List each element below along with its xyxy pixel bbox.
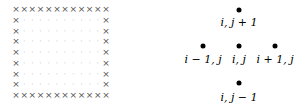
interior-node-dot: ·: [69, 69, 77, 79]
boundary-node-cross-icon: ×: [69, 4, 77, 14]
interior-node-dot: ·: [53, 47, 61, 57]
boundary-node-cross-icon: ×: [86, 4, 94, 14]
boundary-node-cross-icon: ×: [28, 90, 36, 100]
interior-node-dot: ·: [94, 26, 102, 36]
interior-node-dot: ·: [45, 69, 53, 79]
interior-node-dot: ·: [37, 58, 45, 68]
boundary-node-cross-icon: ×: [12, 47, 20, 57]
interior-node-dot: ·: [61, 36, 69, 46]
boundary-node-cross-icon: ×: [102, 36, 110, 46]
boundary-node-cross-icon: ×: [102, 90, 110, 100]
interior-node-dot: ·: [94, 15, 102, 25]
boundary-node-cross-icon: ×: [102, 58, 110, 68]
interior-node-dot: ·: [37, 69, 45, 79]
interior-node-dot: ·: [86, 58, 94, 68]
interior-node-dot: ·: [20, 58, 28, 68]
interior-node-dot: ·: [94, 69, 102, 79]
interior-node-dot: ·: [45, 58, 53, 68]
interior-node-dot: ·: [20, 26, 28, 36]
interior-node-dot: ·: [37, 47, 45, 57]
interior-node-dot: ·: [20, 36, 28, 46]
interior-node-dot: ·: [77, 79, 85, 89]
interior-node-dot: ·: [37, 26, 45, 36]
finite-difference-grid: ×××××××××××××··········××··········××···…: [0, 0, 152, 108]
boundary-node-cross-icon: ×: [28, 4, 36, 14]
boundary-node-cross-icon: ×: [12, 36, 20, 46]
boundary-node-cross-icon: ×: [77, 90, 85, 100]
interior-node-dot: ·: [28, 36, 36, 46]
boundary-node-cross-icon: ×: [12, 90, 20, 100]
interior-node-dot: ·: [77, 69, 85, 79]
stencil-label-west: i − 1, j: [184, 53, 221, 66]
interior-node-dot: ·: [53, 15, 61, 25]
interior-node-dot: ·: [69, 36, 77, 46]
stencil-label-east: i + 1, j: [256, 53, 293, 66]
stencil-label-north: i, j + 1: [220, 16, 257, 29]
interior-node-dot: ·: [61, 15, 69, 25]
boundary-node-cross-icon: ×: [45, 4, 53, 14]
interior-node-dot: ·: [20, 69, 28, 79]
interior-node-dot: ·: [61, 26, 69, 36]
interior-node-dot: ·: [69, 47, 77, 57]
interior-node-dot: ·: [61, 47, 69, 57]
interior-node-dot: ·: [37, 15, 45, 25]
interior-node-dot: ·: [28, 58, 36, 68]
interior-node-dot: ·: [28, 79, 36, 89]
boundary-node-cross-icon: ×: [102, 26, 110, 36]
interior-node-dot: ·: [69, 15, 77, 25]
boundary-node-cross-icon: ×: [20, 4, 28, 14]
interior-node-dot: ·: [45, 15, 53, 25]
interior-node-dot: ·: [53, 58, 61, 68]
boundary-node-cross-icon: ×: [102, 4, 110, 14]
interior-node-dot: ·: [77, 47, 85, 57]
boundary-node-cross-icon: ×: [102, 69, 110, 79]
stencil-point-west: [201, 44, 206, 49]
interior-node-dot: ·: [94, 58, 102, 68]
boundary-node-cross-icon: ×: [102, 47, 110, 57]
boundary-node-cross-icon: ×: [102, 79, 110, 89]
boundary-node-cross-icon: ×: [12, 26, 20, 36]
boundary-node-cross-icon: ×: [53, 90, 61, 100]
interior-node-dot: ·: [45, 36, 53, 46]
interior-node-dot: ·: [94, 47, 102, 57]
interior-node-dot: ·: [94, 36, 102, 46]
interior-node-dot: ·: [28, 15, 36, 25]
boundary-node-cross-icon: ×: [77, 4, 85, 14]
boundary-node-cross-icon: ×: [37, 4, 45, 14]
interior-node-dot: ·: [45, 79, 53, 89]
interior-node-dot: ·: [61, 69, 69, 79]
stencil-point-center: [237, 44, 242, 49]
interior-node-dot: ·: [20, 15, 28, 25]
boundary-node-cross-icon: ×: [53, 4, 61, 14]
boundary-node-cross-icon: ×: [12, 79, 20, 89]
interior-node-dot: ·: [20, 47, 28, 57]
interior-node-dot: ·: [69, 26, 77, 36]
boundary-node-cross-icon: ×: [12, 4, 20, 14]
boundary-node-cross-icon: ×: [45, 90, 53, 100]
boundary-node-cross-icon: ×: [86, 90, 94, 100]
interior-node-dot: ·: [94, 79, 102, 89]
interior-node-dot: ·: [45, 26, 53, 36]
interior-node-dot: ·: [77, 15, 85, 25]
interior-node-dot: ·: [86, 47, 94, 57]
stencil-label-center: i, j: [232, 53, 246, 66]
interior-node-dot: ·: [53, 26, 61, 36]
boundary-node-cross-icon: ×: [12, 15, 20, 25]
boundary-node-cross-icon: ×: [61, 4, 69, 14]
interior-node-dot: ·: [69, 79, 77, 89]
interior-node-dot: ·: [37, 79, 45, 89]
interior-node-dot: ·: [37, 36, 45, 46]
boundary-node-cross-icon: ×: [37, 90, 45, 100]
interior-node-dot: ·: [61, 58, 69, 68]
interior-node-dot: ·: [77, 36, 85, 46]
boundary-node-cross-icon: ×: [12, 69, 20, 79]
boundary-node-cross-icon: ×: [12, 58, 20, 68]
interior-node-dot: ·: [86, 26, 94, 36]
interior-node-dot: ·: [86, 15, 94, 25]
stencil-point-east: [273, 44, 278, 49]
interior-node-dot: ·: [20, 79, 28, 89]
interior-node-dot: ·: [53, 69, 61, 79]
stencil-point-north: [237, 8, 242, 13]
interior-node-dot: ·: [53, 79, 61, 89]
boundary-node-cross-icon: ×: [94, 90, 102, 100]
